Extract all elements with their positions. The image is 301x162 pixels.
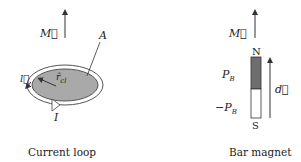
- pole-plus-label: PB: [222, 69, 235, 83]
- north-label: N: [252, 47, 261, 57]
- pole-minus-label: −PB: [215, 102, 237, 116]
- dipole-label: d⃗: [275, 84, 289, 95]
- current-label: I: [54, 112, 58, 123]
- unit-vector-label: r̂cl: [56, 73, 66, 85]
- current-loop-caption: Current loop: [28, 147, 96, 158]
- pole-minus-symbol: −P: [215, 101, 232, 114]
- south-label: S: [252, 121, 259, 131]
- loop-moment-label: M⃗: [40, 28, 58, 39]
- diagram-canvas: [0, 0, 301, 162]
- north-pole-block: [251, 57, 261, 89]
- bar-magnet-caption: Bar magnet: [229, 147, 291, 158]
- pole-minus-subscript: B: [232, 108, 237, 116]
- bar-magnet-figure: [251, 12, 270, 118]
- line-element-label: l⃗: [20, 74, 29, 84]
- pole-plus-subscript: B: [229, 75, 234, 83]
- current-loop-figure: [27, 12, 103, 111]
- area-label: A: [99, 30, 107, 41]
- south-pole-block: [251, 89, 261, 118]
- area-pointer-line: [87, 42, 100, 76]
- unit-vector-subscript: cl: [60, 77, 66, 85]
- magnet-moment-label: M⃗: [229, 28, 247, 39]
